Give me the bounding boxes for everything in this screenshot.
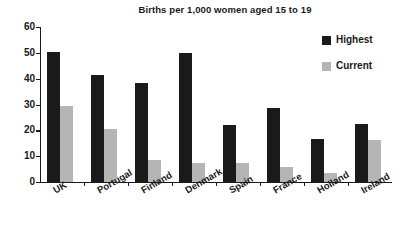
- bar-group: [355, 27, 381, 182]
- y-tick-mark: [36, 27, 40, 28]
- bar-group: [267, 27, 293, 182]
- legend-swatch-highest: [322, 36, 331, 45]
- bar-highest-uk[interactable]: [47, 52, 60, 182]
- y-tick-mark: [36, 53, 40, 54]
- bar-group: [223, 27, 249, 182]
- bar-chart: Births per 1,000 women aged 15 to 19 010…: [0, 0, 410, 227]
- x-tick-mark: [348, 182, 349, 186]
- x-tick-mark: [260, 182, 261, 186]
- bar-group: [91, 27, 117, 182]
- bar-highest-spain[interactable]: [223, 125, 236, 182]
- y-tick-label: 30: [24, 98, 35, 111]
- y-tick-mark: [36, 182, 40, 183]
- x-tick-mark: [304, 182, 305, 186]
- bar-highest-portugal[interactable]: [91, 75, 104, 182]
- y-tick-label: 20: [24, 123, 35, 136]
- bar-highest-france[interactable]: [267, 108, 280, 182]
- x-tick-mark: [216, 182, 217, 186]
- bar-current-uk[interactable]: [60, 106, 73, 182]
- bar-group: [135, 27, 161, 182]
- y-tick-mark: [36, 156, 40, 157]
- bar-highest-ireland[interactable]: [355, 124, 368, 182]
- bar-group: [311, 27, 337, 182]
- x-tick-mark: [84, 182, 85, 186]
- bar-group: [47, 27, 73, 182]
- bar-highest-finland[interactable]: [135, 83, 148, 182]
- y-tick-mark: [36, 130, 40, 131]
- legend-label-highest: Highest: [336, 33, 373, 47]
- bar-highest-holland[interactable]: [311, 139, 324, 182]
- legend-label-current: Current: [336, 59, 372, 73]
- x-tick-mark: [172, 182, 173, 186]
- y-tick-label: 10: [24, 149, 35, 162]
- bar-highest-denmark[interactable]: [179, 53, 192, 182]
- chart-title: Births per 1,000 women aged 15 to 19: [0, 4, 410, 15]
- y-tick-label: 60: [24, 20, 35, 33]
- legend-swatch-current: [322, 62, 331, 71]
- y-tick-mark: [36, 105, 40, 106]
- y-tick-label: 50: [24, 46, 35, 59]
- y-axis-line: [40, 27, 41, 182]
- y-tick-mark: [36, 79, 40, 80]
- y-tick-label: 40: [24, 72, 35, 85]
- y-tick-label: 0: [29, 175, 35, 188]
- bar-group: [179, 27, 205, 182]
- x-tick-mark: [128, 182, 129, 186]
- plot-area: 0102030405060: [40, 27, 392, 182]
